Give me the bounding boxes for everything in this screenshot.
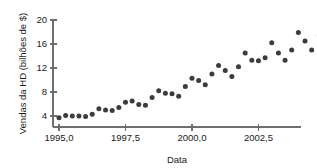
data-point (203, 82, 208, 87)
data-point (103, 108, 108, 113)
data-points-layer (57, 18, 317, 121)
data-point (150, 95, 155, 100)
plot-area: 48121620 1995,01997,52000,02002,5 DataVe… (0, 0, 316, 168)
data-point (63, 113, 68, 118)
data-point (263, 55, 268, 60)
data-point (116, 105, 121, 110)
data-point (136, 102, 141, 107)
data-point (176, 94, 181, 99)
data-point (223, 68, 228, 73)
data-point (96, 106, 101, 111)
data-point (123, 100, 128, 105)
data-point (170, 91, 175, 96)
y-axis: 48121620 (36, 14, 56, 127)
data-point (70, 114, 75, 119)
data-point (130, 99, 135, 104)
data-point (296, 30, 301, 35)
y-tick-label-4: 4 (42, 110, 47, 121)
data-point (189, 76, 194, 81)
data-point (209, 72, 214, 77)
y-tick-label-12: 12 (36, 62, 47, 73)
data-point (156, 88, 161, 93)
data-point (76, 114, 81, 119)
data-point (83, 114, 88, 119)
y-tick-label-8: 8 (42, 86, 47, 97)
data-point (269, 40, 274, 45)
x-tick-label-2002.5: 2002,5 (244, 132, 273, 143)
data-point (183, 84, 188, 89)
x-tick-label-1995: 1995,0 (44, 132, 73, 143)
y-tick-label-16: 16 (36, 38, 47, 49)
data-point (276, 51, 281, 56)
x-axis: 1995,01997,52000,02002,5 (44, 124, 301, 144)
data-point (303, 39, 308, 44)
data-point (57, 115, 62, 120)
data-point (249, 58, 254, 63)
data-point (196, 78, 201, 83)
data-point (110, 108, 115, 113)
data-point (163, 91, 168, 96)
data-point (256, 58, 261, 63)
scatter-chart: 48121620 1995,01997,52000,02002,5 DataVe… (0, 0, 316, 168)
x-axis-title: Data (167, 154, 188, 165)
y-axis-title: Vendas da HD (bilhões de $) (17, 13, 28, 134)
data-point (90, 112, 95, 117)
y-tick-label-20: 20 (36, 14, 47, 25)
data-point (243, 51, 248, 56)
data-point (283, 58, 288, 63)
data-point (289, 48, 294, 53)
data-point (309, 48, 314, 53)
data-point (143, 103, 148, 108)
data-point (216, 63, 221, 68)
data-point (236, 64, 241, 69)
x-tick-label-2000: 2000,0 (177, 132, 206, 143)
data-point (229, 74, 234, 79)
x-tick-label-1997.5: 1997,5 (111, 132, 140, 143)
